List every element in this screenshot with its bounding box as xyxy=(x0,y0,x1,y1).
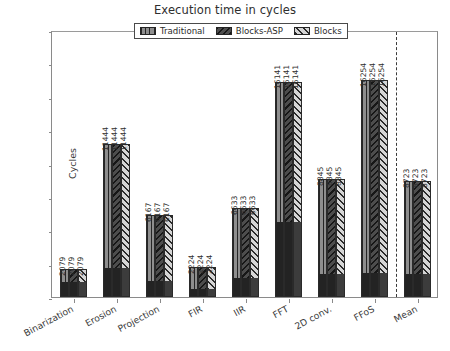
bar-base-overlay xyxy=(319,274,326,296)
bar-base-overlay xyxy=(79,282,86,296)
legend-item-blocks[interactable]: Blocks xyxy=(294,26,342,36)
x-axis-tick-mark xyxy=(246,299,247,303)
bar-base-overlay xyxy=(294,222,301,296)
y-axis-tick-mark xyxy=(49,166,53,167)
bar-fft-blocks xyxy=(293,82,302,297)
bar-base-overlay xyxy=(362,273,369,296)
y-axis-tick-mark xyxy=(49,266,53,267)
legend-label-traditional: Traditional xyxy=(160,26,205,36)
legend-label-blocks-asp: Blocks-ASP xyxy=(236,26,283,36)
bar-value-label: 6167 xyxy=(162,202,171,221)
y-axis-tick-mark xyxy=(49,299,53,300)
bar-value-label: 2224 xyxy=(187,255,196,274)
bar-base-overlay xyxy=(380,273,387,296)
bar-base-overlay xyxy=(199,289,206,296)
legend-swatch-blocks xyxy=(294,27,310,36)
x-axis-tick-mark xyxy=(418,299,419,303)
legend-label-blocks: Blocks xyxy=(314,26,342,36)
x-axis-tick-mark xyxy=(117,299,118,303)
bar-base-overlay xyxy=(251,278,258,296)
bar-ffos-blocks-asp xyxy=(370,80,379,297)
bar-ffos-blocks xyxy=(379,80,388,297)
bar-iir-blocks xyxy=(250,208,259,297)
x-axis-tick-label-projection: Projection xyxy=(115,303,160,334)
bar-value-label: 16141 xyxy=(273,64,282,88)
bar-value-label: 16141 xyxy=(282,64,291,88)
bar-value-label: 16254 xyxy=(368,63,377,87)
x-axis-tick-mark xyxy=(160,299,161,303)
figure: Execution time in cycles 207920792079114… xyxy=(0,0,450,351)
bar-base-overlay xyxy=(190,289,197,296)
group-separator-line xyxy=(396,32,397,297)
x-axis-tick-label-fir: FIR xyxy=(186,303,204,319)
y-axis-tick-mark xyxy=(49,99,53,100)
bar-base-overlay xyxy=(104,268,111,296)
bar-value-label: 6633 xyxy=(248,196,257,215)
y-axis-tick-mark xyxy=(49,232,53,233)
bar-base-overlay xyxy=(276,222,283,296)
bar-base-overlay xyxy=(423,274,430,296)
bar-base-overlay xyxy=(405,274,412,296)
legend-item-traditional[interactable]: Traditional xyxy=(140,26,205,36)
y-axis-tick-mark xyxy=(49,132,53,133)
bar-base-overlay xyxy=(242,278,249,296)
bar-base-overlay xyxy=(70,282,77,296)
y-axis-tick-mark xyxy=(49,65,53,66)
bar-2d-conv--blocks-asp xyxy=(327,179,336,297)
bar-projection-traditional xyxy=(146,215,155,297)
y-axis-tick-mark xyxy=(49,199,53,200)
legend-swatch-blocks-asp xyxy=(216,27,232,36)
bar-base-overlay xyxy=(328,274,335,296)
x-axis-tick-label-2d-conv-: 2D conv. xyxy=(292,303,332,331)
bar-iir-traditional xyxy=(232,208,241,297)
bar-base-overlay xyxy=(156,281,163,296)
bar-fft-blocks-asp xyxy=(284,82,293,297)
bar-fft-traditional xyxy=(275,82,284,297)
bar-value-label: 6167 xyxy=(144,202,153,221)
bar-mean-traditional xyxy=(404,181,413,297)
x-axis-tick-label-fft: FFT xyxy=(270,303,289,320)
bar-value-label: 6633 xyxy=(239,196,248,215)
bar-value-label: 6633 xyxy=(230,196,239,215)
bar-erosion-traditional xyxy=(103,144,112,297)
x-axis-tick-mark xyxy=(332,299,333,303)
bar-base-overlay xyxy=(414,274,421,296)
x-axis-tick-mark xyxy=(203,299,204,303)
bar-2d-conv--traditional xyxy=(318,179,327,297)
bar-base-overlay xyxy=(61,282,68,296)
bar-value-label: 8723 xyxy=(402,168,411,187)
bar-mean-blocks xyxy=(422,181,431,297)
bar-value-label: 2079 xyxy=(67,257,76,276)
bar-value-label: 16254 xyxy=(377,63,386,87)
bar-value-label: 11444 xyxy=(110,127,119,151)
legend-item-blocks-asp[interactable]: Blocks-ASP xyxy=(216,26,283,36)
chart-title: Execution time in cycles xyxy=(0,3,450,17)
bar-2d-conv--blocks xyxy=(336,179,345,297)
bar-erosion-blocks xyxy=(121,144,130,297)
x-axis-tick-label-ffos: FFoS xyxy=(351,303,375,323)
bar-iir-blocks-asp xyxy=(241,208,250,297)
bar-value-label: 2224 xyxy=(196,255,205,274)
bar-ffos-traditional xyxy=(361,80,370,297)
bar-value-label: 2079 xyxy=(58,257,67,276)
bar-value-label: 6167 xyxy=(153,202,162,221)
bar-value-label: 8723 xyxy=(411,168,420,187)
bar-value-label: 8845 xyxy=(316,167,325,186)
y-axis-label: Cycles xyxy=(67,104,78,224)
bar-base-overlay xyxy=(371,273,378,296)
x-axis-tick-label-mean: Mean xyxy=(391,303,418,324)
x-axis-tick-label-erosion: Erosion xyxy=(83,303,118,329)
bar-base-overlay xyxy=(147,281,154,296)
bar-base-overlay xyxy=(165,281,172,296)
bar-value-label: 11444 xyxy=(101,127,110,151)
bar-value-label: 16254 xyxy=(359,63,368,87)
plot-inner: 2079207920791144411444114446167616761672… xyxy=(52,32,437,297)
bar-base-overlay xyxy=(285,222,292,296)
bar-base-overlay xyxy=(113,268,120,296)
bar-value-label: 8723 xyxy=(420,168,429,187)
legend-swatch-traditional xyxy=(140,27,156,36)
bar-value-label: 2079 xyxy=(76,257,85,276)
bar-erosion-blocks-asp xyxy=(112,144,121,297)
bar-value-label: 16141 xyxy=(291,64,300,88)
x-axis-tick-mark xyxy=(375,299,376,303)
